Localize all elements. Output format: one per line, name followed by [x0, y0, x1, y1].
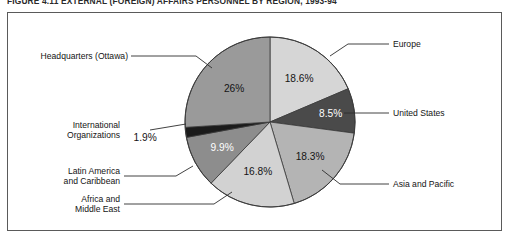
value-label-united-states: 8.5%	[319, 108, 342, 119]
label-africa-and-middle-east[interactable]: Africa and Middle East	[24, 194, 120, 215]
figure-container: FIGURE 4.11 EXTERNAL (FOREIGN) AFFAIRS P…	[0, 0, 510, 243]
label-europe[interactable]: Europe	[393, 39, 421, 49]
value-label-europe: 18.6%	[285, 73, 314, 84]
value-label-international-organizations: 1.9%	[133, 132, 156, 143]
label-asia-and-pacific[interactable]: Asia and Pacific	[393, 179, 454, 189]
leader-line-international-organizations	[150, 124, 186, 130]
label-headquarters-ottawa[interactable]: Headquarters (Ottawa)	[10, 51, 128, 61]
leader-line-headquarters-ottawa	[131, 56, 212, 68]
leader-line-africa-and-middle-east	[124, 192, 232, 204]
label-united-states[interactable]: United States	[393, 108, 445, 118]
leader-line-latin-america-and-caribbean	[124, 166, 193, 176]
label-international-organizations[interactable]: International Organizations	[24, 120, 120, 141]
leader-line-europe	[330, 44, 389, 56]
pie-slices	[185, 37, 355, 207]
value-label-africa-and-middle-east: 16.8%	[243, 166, 272, 177]
value-label-latin-america-and-caribbean: 9.9%	[210, 142, 233, 153]
label-latin-america-and-caribbean[interactable]: Latin America and Caribbean	[24, 166, 120, 187]
value-label-asia-and-pacific: 18.3%	[296, 151, 325, 162]
value-label-headquarters-ottawa: 26%	[224, 83, 244, 94]
